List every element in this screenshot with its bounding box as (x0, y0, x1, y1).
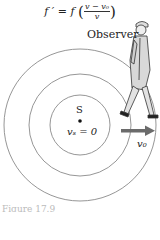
source-label: S (76, 104, 83, 115)
wavefront-middle (29, 74, 131, 176)
source-dot (78, 119, 82, 123)
observer-label: Observer (87, 28, 138, 41)
observer-velocity-label: v₀ (137, 138, 147, 149)
source-velocity-label: vₛ = 0 (67, 126, 97, 137)
velocity-arrow-icon (121, 126, 155, 137)
figure-caption: Figure 17.9 (2, 204, 55, 212)
